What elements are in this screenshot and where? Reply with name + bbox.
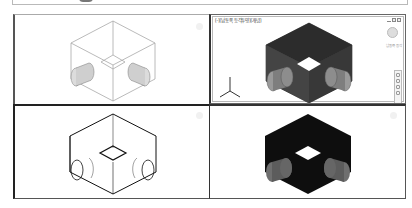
viewport-bottom-right-shaded[interactable] xyxy=(209,104,406,199)
ucs-icon xyxy=(220,77,240,97)
hidden-line-model xyxy=(15,106,209,199)
top-strip-handle xyxy=(79,0,93,2)
top-strip xyxy=(12,0,408,5)
conceptual-model xyxy=(211,15,406,104)
shaded-model xyxy=(210,106,406,199)
wireframe-model xyxy=(15,15,209,104)
viewport-bottom-left-hidden[interactable] xyxy=(13,104,209,199)
viewport-top-right-conceptual[interactable]: [-][남동쪽 등각투영][개념] 남동쪽 등각 xyxy=(209,14,406,104)
viewport-top-left-wireframe[interactable] xyxy=(13,14,209,104)
